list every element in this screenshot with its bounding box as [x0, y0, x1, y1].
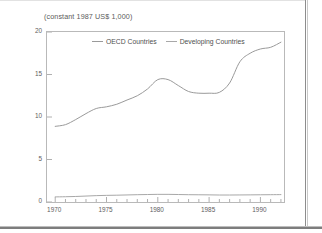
legend-label: Developing Countries [180, 38, 245, 45]
legend-label: OECD Countries [106, 38, 157, 45]
legend-item-1: Developing Countries [166, 38, 245, 45]
y-tick-label: 10 [26, 112, 42, 119]
data-series-group [55, 42, 281, 197]
x-tick-label: 1985 [195, 206, 221, 213]
x-tick-label: 1970 [41, 206, 67, 213]
x-tick-label: 1975 [93, 206, 119, 213]
plot-canvas [47, 32, 284, 202]
page-edge-right-light [307, 0, 308, 226]
page-edge-bottom [0, 227, 322, 229]
axis-tick-marks [47, 32, 281, 202]
y-tick-label: 20 [26, 27, 42, 34]
y-tick-label: 0 [26, 197, 42, 204]
legend-item-0: OECD Countries [92, 38, 157, 45]
x-tick-label: 1990 [246, 206, 272, 213]
y-tick-label: 5 [26, 155, 42, 162]
chart-units-title: (constant 1987 US$ 1,000) [44, 12, 132, 21]
x-tick-label: 1980 [144, 206, 170, 213]
plot-frame [46, 31, 285, 203]
legend-line-swatch [92, 41, 103, 42]
series-line-1 [55, 194, 281, 197]
series-line-0 [55, 42, 281, 126]
y-tick-label: 15 [26, 70, 42, 77]
chart-page: (constant 1987 US$ 1,000) 05101520 19701… [0, 0, 322, 233]
chart-legend: OECD CountriesDeveloping Countries [92, 38, 245, 45]
chart-container: (constant 1987 US$ 1,000) 05101520 19701… [0, 0, 306, 226]
legend-line-swatch [166, 41, 177, 42]
